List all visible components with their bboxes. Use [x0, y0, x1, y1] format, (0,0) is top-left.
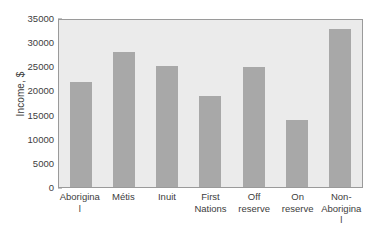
bar [329, 29, 351, 187]
y-axis-tick-labels: 05000100001500020000250003000035000 [20, 19, 54, 188]
x-tick-label: Inuit [145, 191, 189, 203]
y-tick-label: 30000 [28, 38, 54, 48]
bar [70, 82, 92, 187]
y-tick-label: 15000 [28, 111, 54, 121]
x-tick-label: Aboriginal [58, 191, 102, 214]
x-tick-label: Métis [102, 191, 146, 203]
bar-chart-figure: Income, $ 050001000015000200002500030000… [0, 0, 377, 231]
bar [199, 96, 221, 187]
bar [286, 120, 308, 187]
plot-area [58, 19, 363, 188]
bar [243, 67, 265, 187]
bar-slot [59, 20, 102, 187]
bar-slot [275, 20, 318, 187]
y-tick-label: 25000 [28, 63, 54, 73]
bar-slot [146, 20, 189, 187]
y-tick-label: 20000 [28, 87, 54, 97]
bar-slot [102, 20, 145, 187]
x-tick-label: On reserve [276, 191, 320, 214]
bar-slot [232, 20, 275, 187]
x-axis-tick-labels: AboriginalMétisInuitFirst NationsOff res… [58, 191, 363, 229]
bar-slot [189, 20, 232, 187]
x-tick-label: Non-Aboriginal [319, 191, 363, 226]
y-tick-label: 0 [49, 183, 54, 193]
y-tick-label: 35000 [28, 14, 54, 24]
bar [156, 66, 178, 187]
y-tick-label: 10000 [28, 135, 54, 145]
x-tick-label: First Nations [189, 191, 233, 214]
bars-layer [59, 20, 362, 187]
x-tick-label: Off reserve [232, 191, 276, 214]
bar [113, 52, 135, 187]
bar-slot [319, 20, 362, 187]
y-tick-label: 5000 [33, 159, 54, 169]
